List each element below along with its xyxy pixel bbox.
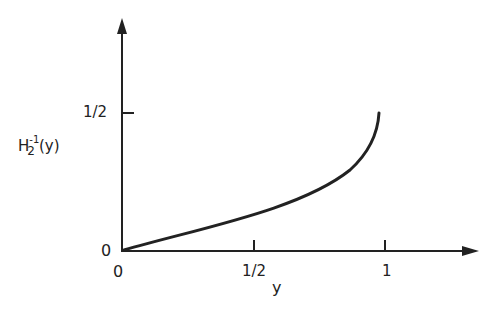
x-axis-label: y	[272, 280, 281, 296]
y-axis-label: H-12(y)	[18, 136, 60, 158]
y-axis-label-sup: -1	[29, 134, 39, 145]
y-tick-label-half: 1/2	[83, 105, 107, 120]
x-tick-label-half: 1/2	[242, 264, 266, 279]
x-tick-label-one: 1	[382, 264, 392, 279]
y-axis-label-arg: (y)	[39, 137, 60, 155]
x-axis-arrowhead	[462, 246, 479, 256]
x-tick-label-zero: 0	[113, 264, 123, 280]
y-axis-arrowhead	[117, 18, 127, 34]
y-tick-label-zero: 0	[101, 243, 111, 259]
inverse-entropy-curve	[124, 113, 379, 250]
y-axis-label-sub: 2	[27, 144, 35, 158]
